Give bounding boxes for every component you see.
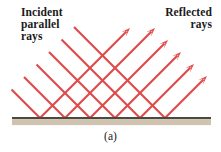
mirror-backing-band xyxy=(12,119,211,125)
incident-ray xyxy=(74,27,165,118)
incident-ray xyxy=(37,65,91,119)
reflected-rays-label: Reflected rays xyxy=(165,6,212,30)
reflected-ray xyxy=(65,32,151,118)
incident-ray xyxy=(24,77,65,118)
incident-ray xyxy=(49,52,115,118)
reflected-ray xyxy=(40,32,126,118)
reflection-diagram: Incident parallel rays Reflected rays (a… xyxy=(0,0,221,152)
reflected-ray xyxy=(115,56,177,118)
incident-ray xyxy=(12,90,41,119)
incident-rays-label: Incident parallel rays xyxy=(21,6,63,43)
mirror-surface xyxy=(12,118,211,125)
figure-caption: (a) xyxy=(0,130,221,142)
reflected-ray xyxy=(165,80,203,118)
reflected-ray-group xyxy=(40,28,207,118)
reflected-ray xyxy=(140,68,190,118)
